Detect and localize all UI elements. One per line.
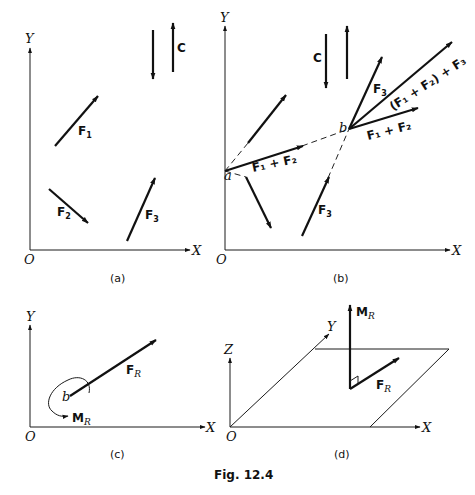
z-axis-label: Z <box>223 342 234 357</box>
vector-f2-shifted <box>246 177 271 228</box>
f3-label: F3 <box>145 208 159 224</box>
vector-f1-shifted <box>248 95 286 143</box>
f1-label: F1 <box>78 124 92 140</box>
y-axis-label: Y <box>327 319 337 334</box>
y-axis-label: Y <box>25 31 35 46</box>
point-b-label: b <box>62 389 70 404</box>
construction-line <box>328 129 349 178</box>
origin-label: O <box>25 429 36 444</box>
y-axis-label: Y <box>220 10 230 25</box>
vector-fr <box>350 358 399 389</box>
panel-d: Z X Y O MR FR (d) <box>223 305 449 461</box>
panel-b: Y X O F₁ + F₂ F3 a b C F3 (F₁ + F₂) + F₃… <box>216 10 469 285</box>
f3-lower-label: F3 <box>318 203 332 219</box>
f3-upper-label: F3 <box>373 82 387 98</box>
panel-c: Y X O b FR MR (c) <box>25 309 216 461</box>
point-a-label: a <box>224 168 232 183</box>
origin-label: O <box>24 252 35 267</box>
caption-d: (d) <box>334 448 350 461</box>
y-axis <box>230 334 329 427</box>
origin-label: O <box>216 252 227 267</box>
fr-label: FR <box>376 378 391 394</box>
x-axis-label: X <box>191 243 202 258</box>
caption-c: (c) <box>110 448 125 461</box>
origin-label: O <box>226 429 237 444</box>
y-axis-label: Y <box>26 309 36 324</box>
caption-a: (a) <box>110 272 125 285</box>
couple-label: C <box>177 41 186 55</box>
mr-label: MR <box>72 411 91 427</box>
x-axis-label: X <box>451 243 462 258</box>
couple-label: C <box>313 51 322 65</box>
f1-plus-f2-label-a: F₁ + F₂ <box>251 152 298 175</box>
figure-12-4: Y X O F1 F2 F3 C (a) Y X O F₁ + F₂ F3 a … <box>0 0 475 495</box>
fr-label: FR <box>126 363 141 379</box>
caption-b: (b) <box>333 272 349 285</box>
figure-caption: Fig. 12.4 <box>214 468 273 482</box>
panel-a: Y X O F1 F2 F3 C (a) <box>24 23 202 285</box>
mr-label: MR <box>356 305 375 321</box>
x-axis-label: X <box>421 420 432 435</box>
right-angle-mark <box>350 376 358 384</box>
vector-fr <box>70 340 156 396</box>
x-axis-label: X <box>205 420 216 435</box>
point-b-label: b <box>339 120 347 135</box>
